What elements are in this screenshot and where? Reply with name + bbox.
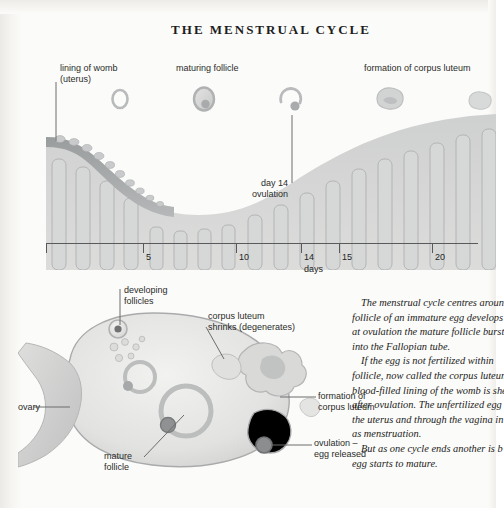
axis-tick-start	[46, 243, 47, 253]
developing-follicle	[109, 320, 127, 338]
paragraph-2-line-5: the uterus and through the vagina in	[352, 413, 504, 428]
label-mature-follicle: mature follicle	[104, 451, 132, 472]
follicle-icon-corpus-luteum	[377, 88, 403, 109]
axis-tick-15	[339, 243, 340, 253]
label-mature-follicle-line1: mature	[104, 451, 132, 461]
ovulation-site	[248, 409, 291, 453]
paragraph-2-line-6: as menstruation.	[352, 427, 504, 442]
axis-label-10: 10	[239, 252, 249, 262]
label-maturing-follicle: maturing follicle	[176, 63, 239, 74]
paragraph-2-line-3: blood-filled lining of the womb is shed	[352, 384, 504, 399]
paragraph-1-line-4: into the Fallopian tube.	[352, 340, 504, 355]
label-lining-of-womb-line2: (uterus)	[60, 74, 91, 84]
axis-label-20: 20	[435, 252, 445, 262]
page-title: THE MENSTRUAL CYCLE	[0, 22, 496, 38]
label-lining-of-womb: lining of womb (uterus)	[60, 63, 118, 84]
label-ovulation: ovulation	[252, 189, 288, 199]
page-title-text: THE MENSTRUAL CYCLE	[171, 22, 371, 37]
released-egg	[256, 437, 272, 453]
paragraph-2: If the egg is not fertilized within foll…	[352, 354, 504, 442]
axis-unit-label: days	[304, 264, 323, 274]
axis-tick-10	[236, 243, 237, 253]
follicle-icon-early	[113, 90, 128, 108]
days-axis: 5 10 14 15 20 days	[46, 243, 480, 273]
menstrual-cycle-chart: lining of womb (uterus) maturing follicl…	[24, 55, 496, 270]
label-formation-corpus-luteum: formation of corpus luteum	[364, 63, 471, 74]
axis-baseline	[46, 243, 478, 244]
womb-lining-area-chart	[24, 55, 496, 270]
axis-tick-14	[301, 243, 302, 253]
label-developing-follicles-line1: developing	[124, 285, 168, 295]
corpus-albicans	[300, 398, 320, 416]
label-developing-follicles: developing follicles	[124, 285, 168, 306]
paragraph-2-line-2: follicle, now called the corpus luteum,	[352, 369, 504, 384]
paragraph-2-line-4: after ovulation. The unfertilized egg i	[352, 398, 504, 413]
ovary-illustration	[18, 285, 348, 500]
label-corpus-luteum-shrinks-line2: shrinks (degenerates)	[208, 322, 295, 332]
paragraph-2-line-1: If the egg is not fertilized within	[352, 354, 504, 369]
axis-label-5: 5	[146, 252, 151, 262]
label-day14: day 14	[261, 178, 288, 188]
axis-label-14: 14	[304, 252, 314, 262]
label-corpus-luteum-shrinks: corpus luteum shrinks (degenerates)	[208, 311, 295, 332]
paragraph-3: But as one cycle ends another is b egg s…	[352, 442, 504, 471]
ovary-cross-section-diagram: developing follicles corpus luteum shrin…	[18, 285, 348, 500]
label-ovulation-egg-released-line1: ovulation –	[314, 438, 358, 448]
paragraph-1: The menstrual cycle centres around the f…	[352, 296, 504, 354]
label-lining-of-womb-line1: lining of womb	[60, 63, 118, 73]
paragraph-1-line-2: follicle of an immature egg develops in	[352, 311, 504, 326]
follicle-icon-corpus-luteum-degenerating	[469, 92, 491, 109]
page-edge-top	[0, 0, 496, 14]
axis-label-15: 15	[342, 252, 352, 262]
paragraph-1-line-3: at ovulation the mature follicle bursts	[352, 325, 504, 340]
label-corpus-luteum-shrinks-line1: corpus luteum	[208, 311, 265, 321]
follicle-icon-ovulating	[281, 89, 301, 111]
body-text-column: The menstrual cycle centres around the f…	[352, 296, 504, 506]
paragraph-3-line-1: But as one cycle ends another is b	[352, 442, 504, 457]
axis-tick-5	[143, 243, 144, 253]
label-day14-ovulation: day 14 ovulation	[246, 178, 288, 199]
paragraph-3-line-2: egg starts to mature.	[352, 457, 504, 472]
axis-tick-20	[432, 243, 433, 253]
paragraph-1-line-1: The menstrual cycle centres around the	[352, 296, 504, 311]
label-ovary: ovary	[18, 402, 40, 413]
follicle-icon-maturing	[194, 88, 214, 111]
label-mature-follicle-line2: follicle	[104, 462, 129, 472]
label-developing-follicles-line2: follicles	[124, 296, 154, 306]
